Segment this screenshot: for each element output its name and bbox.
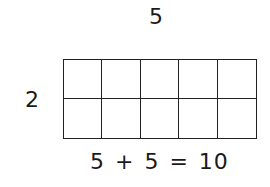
grid-cell bbox=[102, 99, 140, 138]
rows-count-label: 2 bbox=[25, 89, 39, 111]
grid-cell bbox=[141, 99, 179, 138]
grid-cell bbox=[64, 99, 102, 138]
grid-cell bbox=[218, 99, 256, 138]
grid-cell bbox=[218, 60, 256, 99]
grid-cell bbox=[179, 60, 217, 99]
grid-cell bbox=[179, 99, 217, 138]
columns-count-label: 5 bbox=[149, 6, 163, 28]
grid-cell bbox=[64, 60, 102, 99]
array-grid bbox=[63, 59, 257, 139]
grid-cell bbox=[141, 60, 179, 99]
equation-text: 5 + 5 = 10 bbox=[90, 151, 229, 173]
grid-cell bbox=[102, 60, 140, 99]
